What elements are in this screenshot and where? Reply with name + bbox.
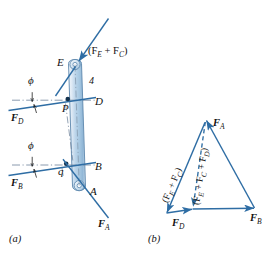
label-force-EC-sum: (FE + FC) — [88, 46, 127, 57]
triangle-side-FB — [193, 208, 255, 209]
force-ec-close: ) — [124, 45, 128, 56]
point-P-marker — [66, 97, 71, 102]
label-point-D: D — [95, 96, 103, 107]
vec-fa-sub: A — [220, 122, 225, 131]
figure-vector-graphics — [0, 0, 275, 255]
force-fb-sub: B — [18, 182, 23, 191]
angle-phi-lower — [32, 157, 36, 178]
figure-container: E (FE + FC) 4 ϕ P D FD ϕ q B FB A FA (a)… — [0, 0, 275, 255]
force-fa-sub: A — [105, 223, 110, 232]
vec-fd-letter: F — [172, 217, 179, 228]
label-point-q: q — [58, 166, 64, 177]
label-member-number: 4 — [89, 76, 94, 86]
force-ec-plus: + F — [102, 45, 119, 56]
vec-ecd-sub-e: E — [196, 192, 206, 198]
label-force-FB-panel-b: FB — [250, 213, 262, 224]
vec-fd-sub: D — [179, 222, 184, 231]
vec-fb-sub: B — [257, 217, 262, 226]
force-ec-open: (F — [88, 45, 97, 56]
label-phi-lower: ϕ — [28, 140, 34, 151]
label-force-FA-panel-b: FA — [213, 118, 225, 129]
label-force-FB: FB — [11, 178, 23, 189]
label-point-E: E — [57, 57, 64, 68]
force-fa-letter: F — [98, 218, 105, 229]
label-force-FD-panel-b: FD — [172, 218, 184, 229]
vec-fb-letter: F — [250, 212, 257, 223]
label-point-B: B — [95, 161, 102, 172]
force-fd-sub: D — [18, 117, 23, 126]
label-point-A: A — [90, 186, 97, 197]
label-force-FD: FD — [11, 113, 23, 124]
triangle-side-FA — [207, 121, 255, 209]
label-force-FA-panel-a: FA — [98, 219, 110, 230]
force-fb-letter: F — [11, 177, 18, 188]
label-point-P: P — [62, 103, 69, 114]
force-fd-letter: F — [11, 112, 18, 123]
caption-panel-b: (b) — [148, 234, 160, 245]
angle-phi-upper — [32, 92, 36, 113]
triangle-side-FD — [167, 209, 193, 213]
force-ec-sub-c: C — [119, 50, 124, 59]
member-4-bar — [69, 60, 86, 191]
vec-fa-letter: F — [213, 117, 220, 128]
label-phi-upper: ϕ — [28, 75, 34, 86]
force-ec-sub-e: E — [97, 50, 102, 59]
caption-panel-a: (a) — [9, 234, 21, 245]
vec-ecd-sub-c: C — [199, 171, 209, 177]
